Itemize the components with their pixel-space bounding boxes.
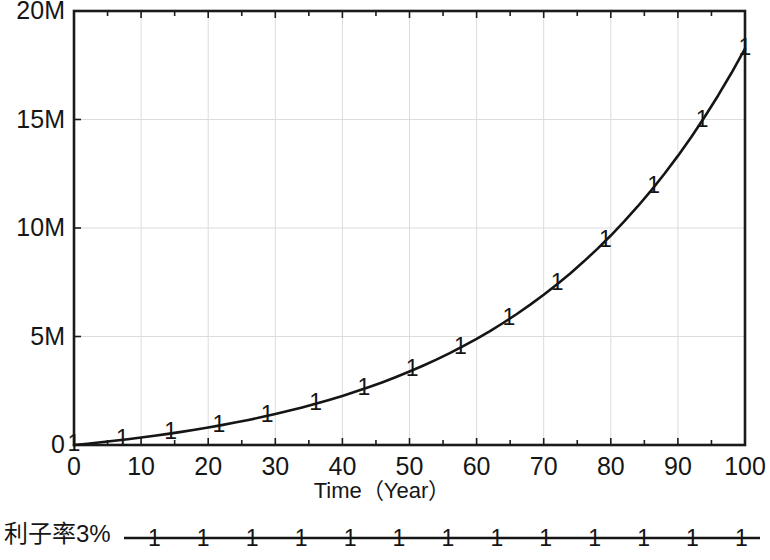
svg-text:1: 1 xyxy=(739,34,752,60)
plot-area: 111111111111111 xyxy=(0,0,764,470)
svg-text:1: 1 xyxy=(441,525,454,551)
svg-text:1: 1 xyxy=(454,333,467,359)
svg-text:1: 1 xyxy=(647,172,660,198)
svg-text:1: 1 xyxy=(261,401,274,427)
svg-text:1: 1 xyxy=(344,525,357,551)
svg-text:1: 1 xyxy=(599,226,612,252)
svg-text:1: 1 xyxy=(393,525,406,551)
y-tick-label: 10M xyxy=(16,215,65,240)
svg-text:1: 1 xyxy=(551,269,564,295)
y-tick-label: 20M xyxy=(16,0,65,23)
x-tick-label: 100 xyxy=(705,454,770,479)
svg-text:1: 1 xyxy=(686,525,699,551)
svg-text:1: 1 xyxy=(406,355,419,381)
svg-text:1: 1 xyxy=(148,525,161,551)
y-tick-label: 15M xyxy=(16,107,65,132)
svg-text:1: 1 xyxy=(213,411,226,437)
svg-text:1: 1 xyxy=(164,418,177,444)
svg-text:1: 1 xyxy=(588,525,601,551)
legend-label: 利子率3% xyxy=(4,519,111,549)
svg-text:1: 1 xyxy=(246,525,259,551)
x-axis-title: Time（Year） xyxy=(0,479,764,503)
svg-text:1: 1 xyxy=(490,525,503,551)
legend-line-sample: 1111111111111 xyxy=(120,516,764,560)
svg-text:1: 1 xyxy=(502,304,515,330)
svg-text:1: 1 xyxy=(116,425,129,451)
svg-text:1: 1 xyxy=(295,525,308,551)
svg-text:1: 1 xyxy=(696,106,709,132)
svg-text:1: 1 xyxy=(357,374,370,400)
svg-text:1: 1 xyxy=(735,525,748,551)
legend: 利子率3% 1111111111111 xyxy=(0,516,764,560)
svg-text:1: 1 xyxy=(539,525,552,551)
y-tick-label: 5M xyxy=(30,324,65,349)
svg-text:1: 1 xyxy=(637,525,650,551)
svg-text:1: 1 xyxy=(197,525,210,551)
svg-text:1: 1 xyxy=(309,389,322,415)
